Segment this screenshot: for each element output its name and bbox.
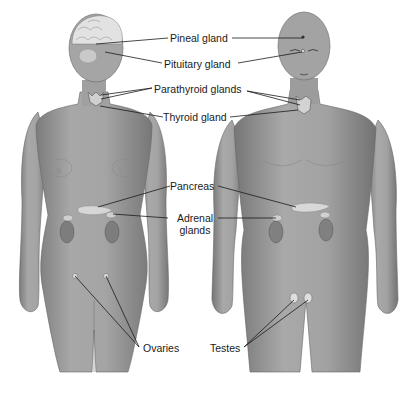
label-parathyroid-glands: Parathyroid glands bbox=[154, 83, 242, 95]
label-pineal-gland: Pineal gland bbox=[170, 32, 228, 44]
label-ovaries: Ovaries bbox=[143, 342, 179, 354]
label-adrenal-line1: Adrenal bbox=[177, 212, 213, 224]
label-pancreas: Pancreas bbox=[170, 180, 214, 192]
label-adrenal-line2: glands bbox=[180, 224, 211, 236]
label-pituitary-gland: Pituitary gland bbox=[164, 58, 231, 70]
label-thyroid-gland: Thyroid gland bbox=[163, 111, 227, 123]
label-adrenal-glands: Adrenal glands bbox=[172, 212, 218, 236]
label-testes: Testes bbox=[210, 342, 240, 354]
endocrine-diagram: Pineal gland Pituitary gland Parathyroid… bbox=[0, 0, 406, 395]
